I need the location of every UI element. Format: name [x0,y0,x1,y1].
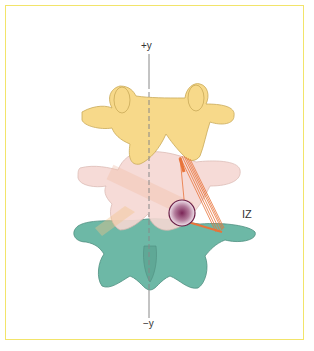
spine-diagram [0,0,314,351]
middle-vertebra [78,152,240,231]
annotation-iz: IZ [242,208,252,220]
axis-label-minus-y: −y [143,318,154,329]
instantaneous-zone-circle [169,200,195,226]
axis-label-plus-y: +y [141,40,152,51]
